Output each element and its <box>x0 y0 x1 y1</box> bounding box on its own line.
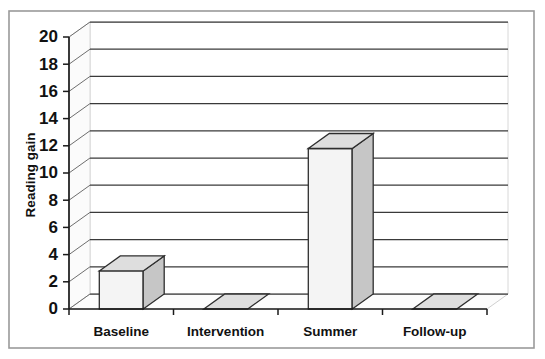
bar-summer <box>308 134 373 309</box>
y-tick-label-8: 8 <box>49 191 58 210</box>
y-tick-label-12: 12 <box>39 136 58 155</box>
y-tick-label-6: 6 <box>49 218 58 237</box>
bar-chart-svg: 02468101214161820 BaselineInterventionSu… <box>0 0 545 359</box>
y-tick-label-4: 4 <box>49 245 59 264</box>
y-tick-label-16: 16 <box>39 82 58 101</box>
y-tick-label-18: 18 <box>39 55 58 74</box>
y-tick-label-14: 14 <box>39 109 58 128</box>
y-tick-label-2: 2 <box>49 272 58 291</box>
bar-front-face <box>99 271 143 309</box>
bar-front-face <box>308 149 352 309</box>
category-label-summer: Summer <box>303 324 358 339</box>
y-tick-label-0: 0 <box>49 299 58 318</box>
chart-figure: 02468101214161820 BaselineInterventionSu… <box>0 0 545 359</box>
y-tick-label-10: 10 <box>39 163 58 182</box>
y-tick-label-20: 20 <box>39 27 58 46</box>
bar-side-face <box>352 134 373 309</box>
category-label-intervention: Intervention <box>187 324 264 339</box>
category-label-follow-up: Follow-up <box>403 324 467 339</box>
bar-baseline <box>99 256 164 309</box>
category-label-baseline: Baseline <box>93 324 149 339</box>
y-axis-title: Reading gain <box>23 133 38 218</box>
